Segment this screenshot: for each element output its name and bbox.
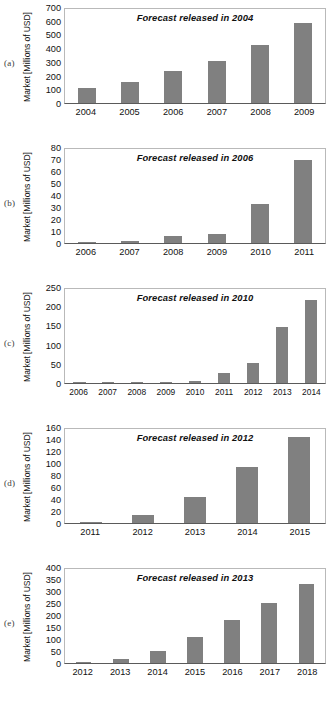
bar-slot <box>169 429 221 523</box>
bar <box>131 382 143 383</box>
y-tick-label: 250 <box>46 284 61 293</box>
x-tick-label: 2004 <box>64 107 108 117</box>
bar-slot <box>181 289 210 383</box>
bar <box>261 603 277 663</box>
panel-e: (e) Market [Millions of USD] 05010015020… <box>0 560 332 700</box>
panel-d: (d) Market [Millions of USD] 02040608010… <box>0 420 332 560</box>
y-tick-label: 80 <box>51 472 61 481</box>
bar <box>305 300 317 383</box>
forecast-figure: (a) Market [Millions of USD] 01002003004… <box>0 0 332 727</box>
bar <box>121 82 139 103</box>
y-tick-label: 200 <box>46 72 61 81</box>
bar-slot <box>139 569 176 663</box>
bar-slot <box>65 9 108 103</box>
bar-slot <box>176 569 213 663</box>
bar <box>78 88 96 103</box>
x-tick-label: 2007 <box>108 247 152 257</box>
bar <box>187 637 203 663</box>
bar-slot <box>195 149 238 243</box>
bar-slot <box>214 569 251 663</box>
y-tick-label: 160 <box>46 424 61 433</box>
x-axis-ticks-d: 20112012201320142015 <box>64 527 326 537</box>
y-tick-label: 80 <box>51 144 61 153</box>
panel-a: (a) Market [Millions of USD] 01002003004… <box>0 0 332 140</box>
x-tick-label: 2012 <box>239 387 268 397</box>
y-tick-label: 50 <box>51 360 61 369</box>
bar-slot <box>152 9 195 103</box>
y-tick-label: 20 <box>51 508 61 517</box>
bar-slot <box>296 289 325 383</box>
y-tick-label: 400 <box>46 564 61 573</box>
y-tick-label: 100 <box>46 86 61 95</box>
y-tick-label: 120 <box>46 448 61 457</box>
plot-area-c: Forecast released in 2010 <box>64 288 326 384</box>
bar <box>208 234 226 243</box>
bar-slot <box>94 289 123 383</box>
bar-slot <box>273 429 325 523</box>
y-axis-ticks-d: 020406080100120140160 <box>28 428 61 524</box>
bar-series-e <box>65 569 325 663</box>
bar-slot <box>238 149 281 243</box>
x-tick-label: 2006 <box>151 107 195 117</box>
bar <box>189 381 201 383</box>
x-tick-label: 2005 <box>108 107 152 117</box>
y-tick-label: 0 <box>56 520 61 529</box>
y-tick-label: 300 <box>46 588 61 597</box>
y-tick-label: 250 <box>46 600 61 609</box>
x-tick-label: 2011 <box>64 527 116 537</box>
bar <box>121 241 139 243</box>
x-tick-label: 2013 <box>101 667 138 677</box>
y-tick-label: 400 <box>46 45 61 54</box>
bar <box>299 584 315 663</box>
bar-slot <box>282 9 325 103</box>
bar-slot <box>65 149 108 243</box>
bar <box>160 382 172 383</box>
bar <box>184 497 206 523</box>
x-tick-label: 2016 <box>214 667 251 677</box>
bar <box>224 620 240 663</box>
bar-slot <box>221 429 273 523</box>
panel-label-d: (d) <box>4 478 15 488</box>
x-tick-label: 2008 <box>122 387 151 397</box>
y-tick-label: 50 <box>51 648 61 657</box>
y-tick-label: 700 <box>46 4 61 13</box>
bar <box>208 61 226 103</box>
y-tick-label: 50 <box>51 180 61 189</box>
x-tick-label: 2011 <box>282 247 326 257</box>
y-tick-label: 500 <box>46 31 61 40</box>
x-tick-label: 2012 <box>64 667 101 677</box>
y-tick-label: 0 <box>56 240 61 249</box>
panel-b: (b) Market [Millions of USD] 01020304050… <box>0 140 332 280</box>
bar <box>132 515 154 523</box>
y-tick-label: 600 <box>46 17 61 26</box>
bar <box>288 437 310 523</box>
bar <box>236 467 258 523</box>
bar-slot <box>117 429 169 523</box>
y-tick-label: 60 <box>51 168 61 177</box>
y-tick-label: 70 <box>51 156 61 165</box>
x-axis-ticks-e: 2012201320142015201620172018 <box>64 667 326 677</box>
y-tick-label: 350 <box>46 576 61 585</box>
x-tick-label: 2014 <box>297 387 326 397</box>
bar-slot <box>238 289 267 383</box>
y-tick-label: 0 <box>56 380 61 389</box>
bar-series-c <box>65 289 325 383</box>
x-tick-label: 2009 <box>195 247 239 257</box>
panel-label-c: (c) <box>4 338 15 348</box>
plot-area-a: Forecast released in 2004 <box>64 8 326 104</box>
y-tick-label: 0 <box>56 100 61 109</box>
x-tick-label: 2011 <box>210 387 239 397</box>
bar <box>251 45 269 103</box>
x-tick-label: 2015 <box>274 527 326 537</box>
bar <box>102 382 114 383</box>
y-tick-label: 150 <box>46 624 61 633</box>
y-tick-label: 0 <box>56 660 61 669</box>
y-tick-label: 100 <box>46 341 61 350</box>
plot-area-b: Forecast released in 2006 <box>64 148 326 244</box>
y-tick-label: 10 <box>51 228 61 237</box>
x-tick-label: 2007 <box>93 387 122 397</box>
x-tick-label: 2013 <box>169 527 221 537</box>
bar-slot <box>238 9 281 103</box>
bar-series-d <box>65 429 325 523</box>
y-axis-ticks-e: 050100150200250300350400 <box>28 568 61 664</box>
